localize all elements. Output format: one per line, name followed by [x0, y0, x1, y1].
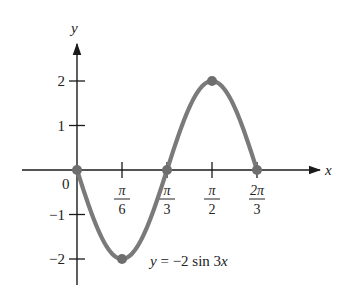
x-tick-label: π6 — [114, 183, 130, 217]
y-tick-label: 1 — [58, 118, 66, 134]
y-tick-label: −2 — [49, 251, 65, 267]
y-axis-label: y — [69, 20, 78, 36]
x-tick-denominator: 2 — [209, 202, 216, 217]
svg-text:y = −2 sin 3x: y = −2 sin 3x — [148, 253, 228, 269]
data-point — [207, 76, 217, 86]
x-tick-numerator: π — [208, 183, 216, 198]
y-tick-label: −1 — [49, 207, 65, 223]
data-point — [117, 254, 127, 264]
sine-graph: y x 0 π6π3π22π3 21−1−2 y = −2 sin 3x y =… — [0, 0, 356, 302]
equation-label: y = −2 sin 3x — [148, 253, 228, 269]
x-tick-denominator: 6 — [119, 202, 126, 217]
data-point — [252, 165, 262, 175]
x-tick-numerator: 2π — [250, 183, 265, 198]
x-tick-label: 2π3 — [249, 183, 265, 217]
x-tick-numerator: π — [163, 183, 171, 198]
origin-label: 0 — [62, 176, 70, 192]
x-tick-denominator: 3 — [254, 202, 261, 217]
x-tick-numerator: π — [118, 183, 126, 198]
y-tick-label: 2 — [58, 73, 66, 89]
data-point — [72, 165, 82, 175]
x-tick-denominator: 3 — [164, 202, 171, 217]
x-axis-label: x — [324, 162, 332, 178]
data-point — [162, 165, 172, 175]
x-tick-label: π2 — [204, 183, 220, 217]
